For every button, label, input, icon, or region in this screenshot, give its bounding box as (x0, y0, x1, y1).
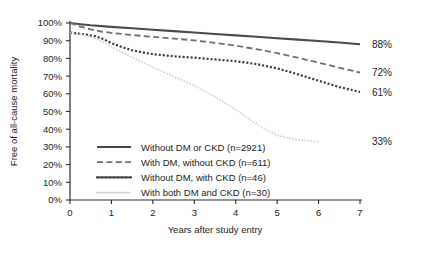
y-tick-label: 10% (43, 177, 63, 188)
chart-background (0, 0, 430, 261)
chart-canvas: 0%10%20%30%40%50%60%70%80%90%100% 012345… (0, 0, 430, 261)
y-tick-label: 70% (43, 71, 63, 82)
y-tick-label: 90% (43, 35, 63, 46)
x-tick-label: 3 (192, 207, 197, 218)
legend-label-2: Without DM, with CKD (n=46) (141, 172, 266, 183)
y-tick-label: 0% (48, 194, 62, 205)
end-label-2: 61% (372, 87, 392, 98)
survival-chart: 0%10%20%30%40%50%60%70%80%90%100% 012345… (0, 0, 430, 261)
end-label-3: 33% (372, 136, 392, 147)
y-axis-title: Free of all-cause mortality (8, 57, 19, 167)
x-tick-label: 0 (67, 207, 72, 218)
legend-label-1: With DM, without CKD (n=611) (141, 157, 270, 168)
end-label-0: 88% (372, 39, 392, 50)
x-tick-label: 1 (109, 207, 114, 218)
y-tick-label: 60% (43, 88, 63, 99)
x-tick-label: 7 (357, 207, 362, 218)
y-tick-label: 40% (43, 124, 63, 135)
x-tick-label: 6 (316, 207, 321, 218)
legend-label-3: With both DM and CKD (n=30) (141, 187, 270, 198)
x-tick-label: 2 (150, 207, 155, 218)
y-tick-label: 20% (43, 159, 63, 170)
y-tick-label: 100% (38, 17, 63, 28)
y-tick-label: 50% (43, 106, 63, 117)
x-tick-label: 4 (233, 207, 238, 218)
end-label-1: 72% (372, 67, 392, 78)
x-axis-title: Years after study entry (168, 224, 263, 235)
y-tick-label: 30% (43, 141, 63, 152)
legend-label-0: Without DM or CKD (n=2921) (141, 142, 265, 153)
y-tick-label: 80% (43, 53, 63, 64)
x-tick-label: 5 (274, 207, 279, 218)
